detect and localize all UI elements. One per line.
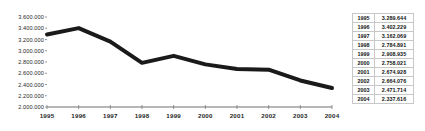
table-cell-year: 2002: [353, 77, 375, 86]
table-cell-value: 2.784.891: [375, 41, 414, 50]
x-axis-tick-label: 2001: [222, 112, 252, 119]
x-axis-tick-label: 2002: [254, 112, 284, 119]
table-cell-year: 1995: [353, 14, 375, 23]
data-table: 19953.289.64419963.402.22919973.162.0691…: [352, 13, 414, 104]
table-row: 19973.162.069: [353, 32, 414, 41]
table-row: 20012.674.928: [353, 68, 414, 77]
table-cell-value: 3.402.229: [375, 23, 414, 32]
table-cell-year: 1996: [353, 23, 375, 32]
x-axis-labels: 1995199619971998199920002001200220032004: [0, 0, 345, 131]
line-chart: 3.600.0003.400.0003.200.0003.000.0002.80…: [0, 0, 345, 131]
table-cell-year: 1998: [353, 41, 375, 50]
table-cell-year: 1997: [353, 32, 375, 41]
x-axis-tick-label: 1998: [127, 112, 157, 119]
x-axis-tick-label: 2000: [190, 112, 220, 119]
data-table-body: 19953.289.64419963.402.22919973.162.0691…: [353, 14, 414, 104]
table-row: 19982.784.891: [353, 41, 414, 50]
table-row: 20042.337.616: [353, 95, 414, 104]
table-cell-value: 2.471.714: [375, 86, 414, 95]
table-cell-year: 2003: [353, 86, 375, 95]
chart-figure: 3.600.0003.400.0003.200.0003.000.0002.80…: [0, 0, 425, 131]
table-cell-year: 2000: [353, 59, 375, 68]
table-cell-value: 2.664.076: [375, 77, 414, 86]
table-cell-value: 2.758.021: [375, 59, 414, 68]
table-row: 19953.289.644: [353, 14, 414, 23]
table-cell-value: 2.908.935: [375, 50, 414, 59]
table-cell-value: 3.162.069: [375, 32, 414, 41]
table-cell-value: 2.674.928: [375, 68, 414, 77]
table-row: 20022.664.076: [353, 77, 414, 86]
table-cell-year: 1999: [353, 50, 375, 59]
table-cell-year: 2004: [353, 95, 375, 104]
table-cell-value: 3.289.644: [375, 14, 414, 23]
x-axis-tick-label: 2004: [317, 112, 347, 119]
x-axis-tick-label: 1997: [95, 112, 125, 119]
x-axis-tick-label: 1999: [159, 112, 189, 119]
table-row: 19992.908.935: [353, 50, 414, 59]
table-row: 20032.471.714: [353, 86, 414, 95]
table-row: 20002.758.021: [353, 59, 414, 68]
table-cell-value: 2.337.616: [375, 95, 414, 104]
x-axis-tick-label: 1995: [32, 112, 62, 119]
x-axis-tick-label: 2003: [285, 112, 315, 119]
table-row: 19963.402.229: [353, 23, 414, 32]
x-axis-tick-label: 1996: [64, 112, 94, 119]
table-cell-year: 2001: [353, 68, 375, 77]
